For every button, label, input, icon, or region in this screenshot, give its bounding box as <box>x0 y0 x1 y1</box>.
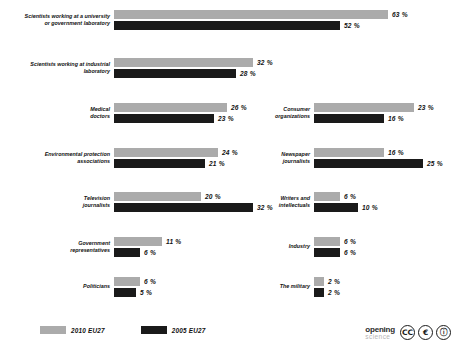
bar-row-2010: 24 % <box>114 148 242 157</box>
bar-2005 <box>114 288 136 297</box>
bar-row-2005: 5 % <box>114 288 242 297</box>
bar-group: Newspaper journalists 16 % 25 % <box>248 148 455 168</box>
chart-canvas: Scientists working at a university or go… <box>0 0 457 361</box>
bar-group: Industry 6 % 6 % <box>248 237 455 257</box>
bar-row-2005: 25 % <box>314 159 455 168</box>
bar-group: Environmental protection associations 24… <box>2 148 242 168</box>
bar-row-2005: 28 % <box>114 69 273 78</box>
bar-value-2005: 6 % <box>344 249 356 256</box>
bar-value-2005: 28 % <box>240 70 256 77</box>
bar-row-2010: 63 % <box>114 10 408 19</box>
bar-value-2010: 23 % <box>418 104 434 111</box>
bar-row-2005: 6 % <box>314 248 455 257</box>
bar-value-2010: 6 % <box>344 193 356 200</box>
bar-pair: 6 % 10 % <box>314 192 455 212</box>
bar-2005 <box>114 159 205 168</box>
bar-2005 <box>314 203 358 212</box>
bar-value-2010: 26 % <box>231 104 247 111</box>
bar-group: Scientists working at a university or go… <box>2 10 242 30</box>
bar-2010 <box>114 277 140 286</box>
bar-row-2010: 6 % <box>114 277 242 286</box>
bar-value-2010: 24 % <box>222 149 238 156</box>
bar-value-2005: 52 % <box>344 22 360 29</box>
bar-row-2005: 16 % <box>314 114 455 123</box>
bar-2010 <box>314 103 414 112</box>
category-label: Writers and intellectuals <box>248 195 314 209</box>
bar-pair: 26 % 23 % <box>114 103 247 123</box>
bar-row-2010: 32 % <box>114 58 273 67</box>
bar-2010 <box>114 58 253 67</box>
chart-legend: 2010 EU27 2005 EU27 <box>40 326 206 334</box>
legend-item-2005: 2005 EU27 <box>141 326 206 334</box>
bar-2010 <box>114 237 162 246</box>
bar-value-2005: 23 % <box>218 115 234 122</box>
bar-2005 <box>314 248 340 257</box>
legend-item-2010: 2010 EU27 <box>40 326 105 334</box>
creative-commons-icon: CC <box>400 325 415 340</box>
footer-branding: opening science CC € ⓘ <box>365 325 451 340</box>
bar-row-2005: 10 % <box>314 203 455 212</box>
bar-row-2010: 6 % <box>314 192 455 201</box>
bar-group: Writers and intellectuals 6 % 10 % <box>248 192 455 212</box>
bar-value-2010: 32 % <box>257 59 273 66</box>
bar-2005 <box>114 21 340 30</box>
category-label: Newspaper journalists <box>248 151 314 165</box>
bar-row-2005: 2 % <box>314 288 455 297</box>
bar-2010 <box>314 277 324 286</box>
bar-value-2010: 20 % <box>205 193 221 200</box>
category-label: Government representatives <box>2 240 114 254</box>
bar-value-2010: 11 % <box>166 238 181 245</box>
category-label: Medical doctors <box>2 106 114 120</box>
bar-row-2010: 11 % <box>114 237 242 246</box>
bar-pair: 6 % 6 % <box>314 237 455 257</box>
bar-2005 <box>114 114 214 123</box>
bar-group: The military 2 % 2 % <box>248 277 455 297</box>
bar-pair: 11 % 6 % <box>114 237 242 257</box>
bar-2005 <box>114 248 140 257</box>
bar-2010 <box>114 192 201 201</box>
legend-swatch-2005 <box>141 326 167 334</box>
bar-pair: 24 % 21 % <box>114 148 242 168</box>
bar-2010 <box>314 148 384 157</box>
bar-value-2005: 5 % <box>140 289 152 296</box>
bar-pair: 16 % 25 % <box>314 148 455 168</box>
bar-group: Government representatives 11 % 6 % <box>2 237 242 257</box>
category-label: Industry <box>248 243 314 250</box>
bar-row-2005: 52 % <box>114 21 408 30</box>
bar-value-2010: 2 % <box>328 278 340 285</box>
category-label: Environmental protection associations <box>2 151 114 165</box>
bar-row-2005: 6 % <box>114 248 242 257</box>
category-label: Scientists working at a university or go… <box>2 13 114 27</box>
bar-group: Scientists working at industrial laborat… <box>2 58 242 78</box>
category-label: Television journalists <box>2 195 114 209</box>
attribution-icon: ⓘ <box>436 325 451 340</box>
bar-2005 <box>114 203 253 212</box>
bar-value-2010: 6 % <box>144 278 156 285</box>
bar-value-2005: 10 % <box>362 204 378 211</box>
bar-2010 <box>114 148 218 157</box>
category-label: Consumer organizations <box>248 106 314 120</box>
bar-value-2005: 25 % <box>427 160 443 167</box>
bar-2010 <box>314 237 340 246</box>
legend-label-2005: 2005 EU27 <box>172 327 206 334</box>
legend-swatch-2010 <box>40 326 66 334</box>
bar-pair: 6 % 5 % <box>114 277 242 297</box>
brand-name-top: opening <box>365 326 395 333</box>
bar-group: Politicians 6 % 5 % <box>2 277 242 297</box>
bar-row-2005: 21 % <box>114 159 242 168</box>
bar-2005 <box>314 114 384 123</box>
category-label: The military <box>248 283 314 290</box>
bar-row-2005: 23 % <box>114 114 247 123</box>
bar-group: Medical doctors 26 % 23 % <box>2 103 242 123</box>
bar-pair: 63 % 52 % <box>114 10 408 30</box>
legend-label-2010: 2010 EU27 <box>71 327 105 334</box>
bar-pair: 23 % 16 % <box>314 103 455 123</box>
brand-name-bottom: science <box>365 333 395 340</box>
bar-pair: 32 % 28 % <box>114 58 273 78</box>
bar-group: Television journalists 20 % 32 % <box>2 192 242 212</box>
bar-value-2005: 16 % <box>388 115 404 122</box>
bar-2010 <box>114 10 388 19</box>
bar-value-2010: 16 % <box>388 149 404 156</box>
bar-row-2010: 23 % <box>314 103 455 112</box>
bar-2005 <box>314 288 324 297</box>
